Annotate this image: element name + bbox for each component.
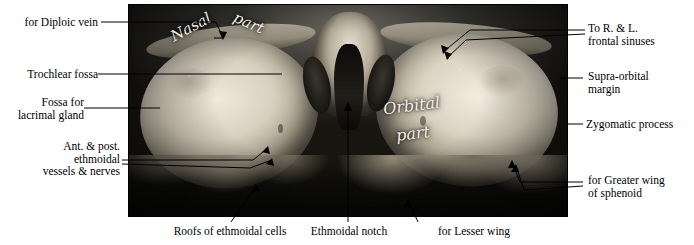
label-greater-wing-sphenoid: for Greater wing of sphenoid [588, 174, 692, 199]
label-trochlear-fossa: Trochlear fossa [6, 68, 98, 81]
label-lesser-wing: for Lesser wing [418, 225, 530, 238]
label-zygomatic-process: Zygomatic process [586, 118, 694, 131]
anatomical-photograph: Nasal part Orbital part [128, 4, 568, 217]
figure-plate: Nasal part Orbital part [0, 0, 694, 245]
label-frontal-sinuses: To R. & L. frontal sinuses [588, 22, 692, 47]
label-ethmoidal-notch: Ethmoidal notch [292, 225, 406, 238]
label-supra-orbital-margin: Supra-orbital margin [588, 70, 688, 95]
label-ethmoidal-vessels-nerves: Ant. & post. ethmoidal vessels & nerves [2, 140, 120, 178]
label-lacrimal-gland-fossa: Fossa for lacrimal gland [2, 96, 84, 121]
plate-frame [128, 4, 568, 217]
label-diploic-vein: for Diploic vein [6, 16, 98, 29]
